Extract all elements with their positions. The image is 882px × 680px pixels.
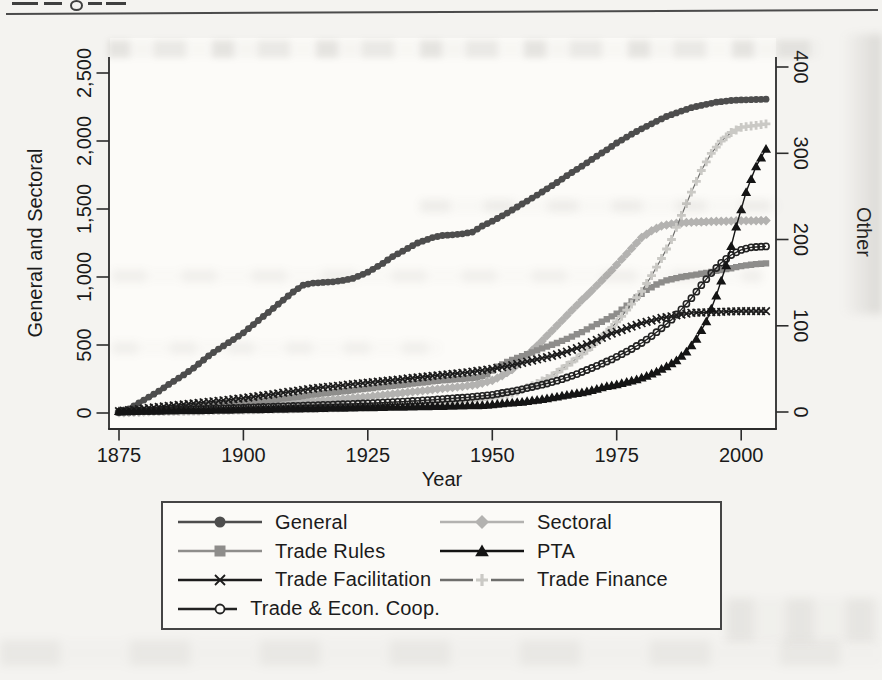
legend-swatch-trade-rules-icon	[178, 539, 262, 563]
circle-marker-icon	[215, 517, 226, 528]
x-tick-label: 1875	[97, 444, 142, 466]
legend-label: Trade Finance	[537, 568, 668, 591]
x-tick-label: 2000	[719, 444, 764, 466]
y-right-tick-label: 100	[790, 309, 812, 342]
x-tick-label: 1950	[470, 444, 515, 466]
y-right-tick-label: 400	[790, 50, 812, 83]
legend-swatch-pta-icon	[440, 539, 524, 563]
legend-label: Trade Rules	[275, 540, 385, 563]
legend-label: General	[275, 511, 348, 534]
legend-entry-trade-finance: Trade Finance	[440, 566, 720, 595]
legend-label: Trade Facilitation	[275, 568, 431, 591]
circle-open-marker-icon	[216, 604, 225, 613]
y-left-tick-label: 500	[73, 328, 95, 361]
y-right-tick-label: 0	[790, 406, 812, 417]
legend-entry-sectoral: Sectoral	[440, 508, 720, 537]
x-axis-title: Year	[422, 468, 463, 490]
legend-entry-trade-econ-coop: Trade & Econ. Coop.	[178, 594, 440, 623]
legend-entry-general: General	[178, 508, 440, 537]
x-tick-label: 1900	[221, 444, 266, 466]
chart-legend: GeneralTrade RulesTrade FacilitationTrad…	[161, 501, 722, 630]
legend-swatch-trade-econ-coop-icon	[178, 597, 237, 621]
plus-marker-icon	[476, 574, 488, 586]
diamond-marker-icon	[475, 515, 489, 529]
scanned-figure-page: 05001,0001,5002,0002,5000100200300400187…	[0, 0, 882, 680]
x-tick-label: 1925	[346, 444, 391, 466]
legend-label: PTA	[537, 540, 575, 563]
y-right-tick-label: 200	[790, 223, 812, 256]
legend-label: Sectoral	[537, 511, 612, 534]
legend-swatch-trade-finance-icon	[440, 568, 524, 592]
legend-swatch-sectoral-icon	[440, 510, 524, 534]
y-axis-left-title: General and Sectoral	[24, 148, 46, 337]
y-left-tick-label: 1,500	[73, 184, 95, 234]
square-marker-icon	[215, 546, 226, 557]
y-axis-right-title: Other	[853, 207, 875, 257]
y-left-tick-label: 2,500	[73, 48, 95, 98]
marker	[763, 96, 770, 103]
y-left-tick-label: 1,000	[73, 252, 95, 302]
legend-label: Trade & Econ. Coop.	[250, 597, 440, 620]
legend-entry-trade-facilitation: Trade Facilitation	[178, 566, 440, 595]
legend-swatch-trade-facilitation-icon	[178, 568, 262, 592]
legend-entry-trade-rules: Trade Rules	[178, 537, 440, 566]
y-left-tick-label: 0	[73, 407, 95, 418]
x-tick-label: 1975	[594, 444, 639, 466]
legend-entry-pta: PTA	[440, 537, 720, 566]
legend-swatch-general-icon	[178, 510, 262, 534]
y-right-tick-label: 300	[790, 137, 812, 170]
y-left-tick-label: 2,000	[73, 116, 95, 166]
